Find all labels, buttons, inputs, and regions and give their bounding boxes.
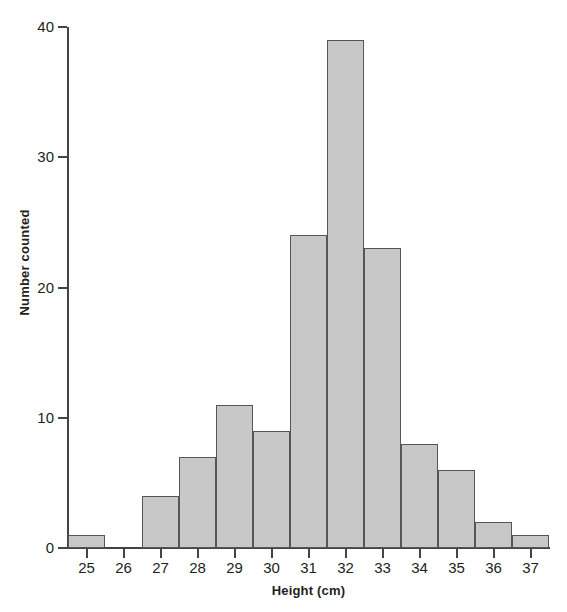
x-axis-tick bbox=[530, 549, 532, 558]
y-axis-tick bbox=[58, 417, 67, 419]
histogram-bar-slot bbox=[253, 27, 290, 548]
x-axis-tick bbox=[160, 549, 162, 558]
histogram-bar bbox=[364, 248, 401, 548]
x-axis-tick-label: 37 bbox=[511, 560, 551, 575]
x-axis-tick-label: 29 bbox=[215, 560, 255, 575]
x-axis-tick bbox=[123, 549, 125, 558]
x-axis-tick bbox=[86, 549, 88, 558]
x-axis-tick-label: 35 bbox=[437, 560, 477, 575]
y-axis-tick bbox=[58, 156, 67, 158]
histogram-bar-slot bbox=[290, 27, 327, 548]
y-axis-tick-label-wrap: 0 bbox=[10, 540, 54, 556]
histogram-bar-slot bbox=[105, 27, 142, 548]
y-axis-tick-label: 40 bbox=[14, 19, 54, 34]
x-axis-tick-label: 28 bbox=[178, 560, 218, 575]
histogram-bar-slot bbox=[475, 27, 512, 548]
x-axis-tick bbox=[345, 549, 347, 558]
histogram-figure: 010203040 25262728293031323334353637 Num… bbox=[0, 0, 567, 612]
histogram-bar-slot bbox=[327, 27, 364, 548]
histogram-bar bbox=[253, 431, 290, 548]
histogram-bars bbox=[68, 27, 549, 548]
y-axis-tick-label-wrap: 40 bbox=[10, 19, 54, 35]
x-axis-tick bbox=[419, 549, 421, 558]
histogram-bar bbox=[179, 457, 216, 548]
histogram-bar bbox=[290, 235, 327, 548]
y-axis-tick-label: 10 bbox=[14, 410, 54, 425]
y-axis-tick bbox=[58, 26, 67, 28]
x-axis-tick bbox=[308, 549, 310, 558]
x-axis-tick-label: 26 bbox=[104, 560, 144, 575]
y-axis-title: Number counted bbox=[17, 193, 32, 333]
histogram-bar-slot bbox=[179, 27, 216, 548]
y-axis-tick bbox=[58, 287, 67, 289]
y-axis-tick-label-wrap: 30 bbox=[10, 149, 54, 165]
x-axis-tick bbox=[197, 549, 199, 558]
histogram-bar bbox=[68, 535, 105, 548]
histogram-bar-slot bbox=[216, 27, 253, 548]
histogram-bar bbox=[401, 444, 438, 548]
histogram-bar-slot bbox=[438, 27, 475, 548]
x-axis-tick-label: 31 bbox=[289, 560, 329, 575]
y-axis-tick-label: 30 bbox=[14, 149, 54, 164]
x-axis-tick-label: 33 bbox=[363, 560, 403, 575]
histogram-bar bbox=[142, 496, 179, 548]
histogram-bar bbox=[216, 405, 253, 548]
histogram-bar-slot bbox=[401, 27, 438, 548]
histogram-bar bbox=[475, 522, 512, 548]
x-axis-tick-label: 32 bbox=[326, 560, 366, 575]
clipped-caption-artifact bbox=[0, 0, 567, 5]
x-axis-tick bbox=[493, 549, 495, 558]
y-axis-tick-label-wrap: 10 bbox=[10, 410, 54, 426]
x-axis-tick bbox=[456, 549, 458, 558]
histogram-bar-slot bbox=[142, 27, 179, 548]
histogram-bar-slot bbox=[364, 27, 401, 548]
histogram-bar bbox=[438, 470, 475, 548]
x-axis-tick bbox=[271, 549, 273, 558]
x-axis-title: Height (cm) bbox=[68, 583, 549, 598]
histogram-bar bbox=[512, 535, 549, 548]
histogram-bar-slot bbox=[512, 27, 549, 548]
x-axis-tick-label: 36 bbox=[474, 560, 514, 575]
x-axis-tick-label: 25 bbox=[67, 560, 107, 575]
histogram-bar bbox=[327, 40, 364, 548]
x-axis-tick bbox=[382, 549, 384, 558]
y-axis-tick-label: 0 bbox=[14, 540, 54, 555]
x-axis-tick-label: 27 bbox=[141, 560, 181, 575]
x-axis-tick-label: 30 bbox=[252, 560, 292, 575]
x-axis-tick bbox=[234, 549, 236, 558]
y-axis-tick bbox=[58, 547, 67, 549]
plot-area bbox=[68, 27, 549, 548]
histogram-bar-slot bbox=[68, 27, 105, 548]
x-axis-tick-label: 34 bbox=[400, 560, 440, 575]
